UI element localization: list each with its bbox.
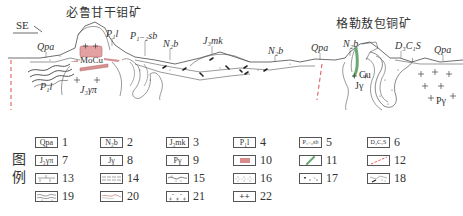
label-d3c1s: D₃C₁S	[395, 41, 421, 51]
legend-title-char-1: 图	[12, 152, 26, 166]
legend-symbol: P₁l	[233, 137, 256, 148]
legend-number: 11	[326, 153, 338, 168]
label-p12sb: P₁₋₂sb	[130, 31, 157, 41]
label-py: Pγ	[436, 96, 446, 106]
legend-number: 7	[62, 153, 68, 168]
legend-symbol-horizontal-lines	[100, 173, 123, 184]
legend-number: 1	[62, 135, 68, 150]
legend-number: 13	[62, 171, 74, 186]
label-cu: Cu	[359, 70, 371, 80]
legend-item-16: 16	[233, 172, 272, 185]
legend-symbol: J₃mk	[166, 137, 189, 148]
legend-symbol-dot-cross	[166, 191, 189, 202]
direction-label: SE	[16, 20, 29, 31]
legend-item-14: 14	[100, 172, 139, 185]
legend-item-15: 15	[166, 172, 205, 185]
legend-symbol-dashes	[35, 173, 58, 184]
legend-item-12: 12	[367, 154, 406, 167]
legend-number: 12	[394, 153, 406, 168]
legend-item-7: J₃γπ 7	[35, 154, 68, 167]
label-p1l: P₁l	[106, 29, 118, 39]
legend-symbol: Pγ	[166, 155, 189, 166]
legend-item-2: N₂b 2	[100, 136, 133, 149]
legend-item-18: 18	[367, 172, 406, 185]
legend-item-10: 10	[233, 154, 272, 167]
legend-number: 10	[260, 153, 272, 168]
legend-number: 2	[127, 135, 133, 150]
legend-number: 18	[394, 171, 406, 186]
legend-symbol-breccia	[367, 173, 390, 184]
legend-item-4: P₁l 4	[233, 136, 266, 149]
label-mocu: MoCu	[80, 55, 103, 65]
deposit-title-bilugangan: 必鲁甘干钼矿	[66, 7, 141, 19]
legend-symbol: N₂b	[100, 137, 123, 148]
label-p1l: P₁l	[40, 82, 52, 92]
legend-item-13: 13	[35, 172, 74, 185]
label-jy: Jγ	[355, 81, 363, 91]
legend-symbol-wavy-red	[100, 191, 123, 202]
legend-symbol: J₃γπ	[35, 155, 58, 166]
label-n2b: N₂b	[163, 39, 178, 49]
legend-number: 19	[62, 189, 74, 204]
legend-number: 15	[193, 171, 205, 186]
legend-item-9: Pγ 9	[166, 154, 199, 167]
legend-symbol: D₃C₁S	[367, 137, 390, 148]
legend-symbol-crosses: ++	[233, 191, 256, 202]
legend-number: 3	[193, 135, 199, 150]
deposit-title-gelaobao: 格勒敖包铜矿	[336, 18, 411, 30]
legend-symbol-wavy-dots-2	[35, 191, 58, 202]
legend-number: 4	[260, 135, 266, 150]
legend-item-22: ++ 22	[233, 190, 272, 203]
legend-number: 16	[260, 171, 272, 186]
legend-symbol-ore-body	[233, 155, 256, 166]
legend-item-1: Qpa 1	[35, 136, 68, 149]
label-n2b: N₂b	[343, 39, 358, 49]
legend-number: 6	[394, 135, 400, 150]
legend-number: 22	[260, 189, 272, 204]
legend-number: 20	[127, 189, 139, 204]
label-qpa: Qpa	[311, 43, 328, 53]
legend-item-19: 19	[35, 190, 74, 203]
legend-symbol: P₁₋₂sb	[299, 137, 322, 148]
legend-symbol: Jγ	[100, 155, 123, 166]
legend-item-11: 11	[299, 154, 338, 167]
legend-symbol-fault	[367, 155, 390, 166]
legend-item-5: P₁₋₂sb 5	[299, 136, 332, 149]
legend-symbol-wavy-dots	[166, 173, 189, 184]
label-qpa: Qpa	[434, 45, 451, 55]
legend-number: 14	[127, 171, 139, 186]
legend-number: 9	[193, 153, 199, 168]
label-qpa: Qpa	[37, 42, 54, 52]
geological-cross-section: SE 必鲁甘干钼矿 格勒敖包铜矿 Qpa P₁l P₁₋₂sb N₂b J₃mk…	[0, 0, 463, 125]
legend-item-21: 21	[166, 190, 205, 203]
label-j3ypi: J₃γπ	[80, 85, 97, 95]
legend-item-3: J₃mk 3	[166, 136, 199, 149]
legend-item-17: 17	[299, 172, 338, 185]
legend-item-6: D₃C₁S 6	[367, 136, 400, 149]
legend-number: 8	[127, 153, 133, 168]
legend-symbol-sparse-ticks	[299, 173, 322, 184]
legend-title-char-2: 例	[12, 170, 26, 184]
legend-item-8: Jγ 8	[100, 154, 133, 167]
label-n2b: N₂b	[268, 46, 283, 56]
legend-number: 5	[326, 135, 332, 150]
legend-symbol-cu-vein	[299, 155, 322, 166]
legend-symbol: Qpa	[35, 137, 58, 148]
legend-symbol-dots	[233, 173, 256, 184]
legend-number: 17	[326, 171, 338, 186]
label-j3mk: J₃mk	[203, 36, 223, 46]
legend-number: 21	[193, 189, 205, 204]
legend-item-20: 20	[100, 190, 139, 203]
